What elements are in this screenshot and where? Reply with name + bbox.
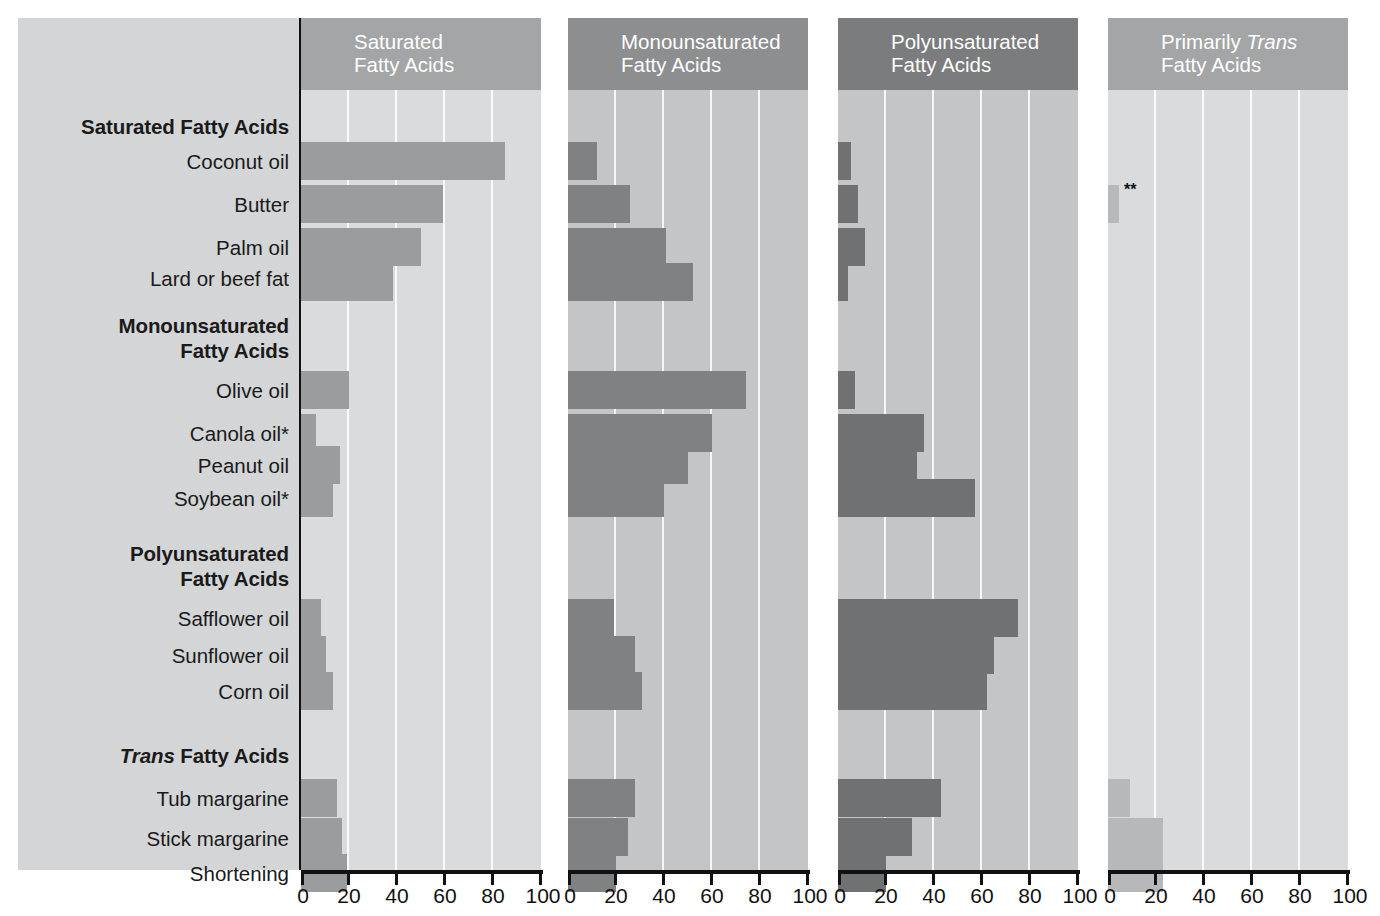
panel-4-title-pre: Primarily (1161, 30, 1246, 53)
panel-4-background (1108, 18, 1348, 870)
bar-saturated-butter (301, 185, 443, 223)
fatty-acid-composition-chart: Saturated Fatty Acids Coconut oil Butter… (0, 0, 1380, 916)
panel-primarily-trans-fatty-acids: Primarily Trans Fatty Acids ** (1108, 18, 1348, 870)
gridline-80 (1028, 90, 1030, 870)
row-label-soybean-oil: Soybean oil* (174, 488, 289, 510)
bar-mono-soybean-oil (568, 479, 664, 517)
row-label-peanut-oil: Peanut oil (198, 455, 289, 477)
xticklabel-p2-20: 20 (604, 884, 627, 908)
bar-saturated-soybean-oil (301, 479, 333, 517)
gridline-60 (710, 90, 712, 870)
row-label-shortening: Shortening (190, 863, 289, 885)
xticklabel-p3-80: 80 (1018, 884, 1041, 908)
row-label-lard-or-beef-fat: Lard or beef fat (150, 268, 289, 290)
xticklabel-p1-60: 60 (433, 884, 456, 908)
bar-trans-butter (1108, 185, 1119, 223)
bar-poly-sunflower-oil (838, 636, 994, 674)
gridline-60 (443, 90, 445, 870)
bar-mono-sunflower-oil (568, 636, 635, 674)
bar-poly-palm-oil (838, 228, 865, 266)
bar-saturated-sunflower-oil (301, 636, 326, 674)
gridline-60 (1250, 90, 1252, 870)
gridline-80 (491, 90, 493, 870)
xticklabel-p1-40: 40 (385, 884, 408, 908)
xticklabel-p2-100: 100 (792, 884, 827, 908)
panel-2-title-line2: Fatty Acids (621, 53, 721, 76)
xticklabel-p2-60: 60 (700, 884, 723, 908)
x-axis-panel-3 (838, 870, 1080, 874)
bar-mono-palm-oil (568, 228, 666, 266)
bar-poly-tub-margarine (838, 779, 941, 817)
bar-mono-olive-oil (568, 371, 746, 409)
bar-poly-lard (838, 263, 848, 301)
panel-1-title: Saturated Fatty Acids (301, 18, 541, 90)
panel-3-title-line2: Fatty Acids (891, 53, 991, 76)
xticklabel-p2-0: 0 (564, 884, 576, 908)
bar-trans-tub-margarine (1108, 779, 1130, 817)
bar-mono-butter (568, 185, 630, 223)
bar-poly-coconut-oil (838, 142, 851, 180)
bar-poly-corn-oil (838, 672, 987, 710)
bar-poly-butter (838, 185, 858, 223)
row-label-column: Saturated Fatty Acids Coconut oil Butter… (18, 18, 301, 870)
xticklabel-p4-40: 40 (1192, 884, 1215, 908)
bar-saturated-palm-oil (301, 228, 421, 266)
bar-mono-tub-margarine (568, 779, 635, 817)
group-heading-monounsaturated-2: Fatty Acids (180, 340, 289, 362)
x-axis-panel-1 (301, 870, 543, 874)
group-heading-saturated: Saturated Fatty Acids (81, 116, 289, 138)
xticklabel-p1-0: 0 (297, 884, 309, 908)
x-axis-panel-4 (1108, 870, 1350, 874)
bar-saturated-tub-margarine (301, 779, 337, 817)
xticklabel-p4-100: 100 (1332, 884, 1367, 908)
bar-saturated-corn-oil (301, 672, 333, 710)
row-label-corn-oil: Corn oil (218, 681, 289, 703)
bar-saturated-safflower-oil (301, 599, 321, 637)
xticklabel-p4-80: 80 (1288, 884, 1311, 908)
group-heading-trans-italic: Trans (120, 744, 175, 767)
bar-poly-soybean-oil (838, 479, 975, 517)
xticklabel-p3-60: 60 (970, 884, 993, 908)
x-axis-panel-2 (568, 870, 810, 874)
row-label-coconut-oil: Coconut oil (186, 151, 289, 173)
butter-trans-footnote-marker: ** (1124, 181, 1136, 199)
panel-4-title-italic: Trans (1246, 30, 1297, 53)
xticklabel-p1-100: 100 (525, 884, 560, 908)
bar-saturated-olive-oil (301, 371, 349, 409)
group-heading-polyunsaturated-1: Polyunsaturated (130, 543, 289, 565)
panel-saturated-fatty-acids: Saturated Fatty Acids (301, 18, 541, 870)
row-label-safflower-oil: Safflower oil (178, 608, 289, 630)
panel-2-title-line1: Monounsaturated (621, 30, 781, 53)
xticklabel-p4-60: 60 (1240, 884, 1263, 908)
panel-3-title-line1: Polyunsaturated (891, 30, 1039, 53)
group-heading-polyunsaturated-2: Fatty Acids (180, 568, 289, 590)
row-label-butter: Butter (234, 194, 289, 216)
bar-mono-safflower-oil (568, 599, 614, 637)
xticklabel-p1-20: 20 (337, 884, 360, 908)
bar-saturated-coconut-oil (301, 142, 505, 180)
panel-monounsaturated-fatty-acids: Monounsaturated Fatty Acids (568, 18, 808, 870)
panel-3-title: Polyunsaturated Fatty Acids (838, 18, 1078, 90)
group-heading-monounsaturated-1: Monounsaturated (119, 315, 289, 337)
row-label-canola-oil: Canola oil* (190, 423, 289, 445)
xticklabel-p3-20: 20 (874, 884, 897, 908)
bar-saturated-stick-margarine (301, 818, 342, 856)
panel-1-title-line1: Saturated (354, 30, 443, 53)
bar-mono-corn-oil (568, 672, 642, 710)
row-label-sunflower-oil: Sunflower oil (172, 645, 289, 667)
panel-1-title-line2: Fatty Acids (354, 53, 454, 76)
panel-4-title: Primarily Trans Fatty Acids (1108, 18, 1348, 90)
xticklabel-p1-80: 80 (481, 884, 504, 908)
bar-saturated-lard (301, 263, 393, 301)
xticklabel-p3-40: 40 (922, 884, 945, 908)
group-heading-trans-rest: Fatty Acids (175, 744, 289, 767)
bar-mono-lard (568, 263, 693, 301)
bar-poly-safflower-oil (838, 599, 1018, 637)
row-label-tub-margarine: Tub margarine (156, 788, 289, 810)
row-label-olive-oil: Olive oil (216, 380, 289, 402)
gridline-60 (980, 90, 982, 870)
bar-trans-stick-margarine (1108, 818, 1163, 856)
row-label-palm-oil: Palm oil (216, 237, 289, 259)
bar-poly-olive-oil (838, 371, 855, 409)
panel-polyunsaturated-fatty-acids: Polyunsaturated Fatty Acids (838, 18, 1078, 870)
